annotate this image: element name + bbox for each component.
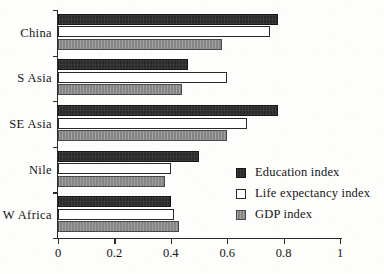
bar-education [58,151,199,162]
y-axis-tick [53,192,58,193]
bar-gdp [58,39,222,50]
x-axis-line [57,238,342,239]
legend-swatch-gdp-icon [236,210,246,220]
bar-education [58,196,171,207]
x-axis-tick-label: 0.2 [107,246,123,261]
legend-label: GDP index [255,207,312,222]
x-axis-tick-label: 0 [55,246,61,261]
y-axis-tick [53,10,58,11]
legend-swatch-education-icon [236,168,246,178]
bar-lifeexp [58,209,174,220]
x-axis-tick [227,239,228,244]
x-axis-tick-label: 0.8 [276,246,292,261]
x-axis-tick [340,239,341,244]
bar-lifeexp [58,118,247,129]
legend-item: GDP index [236,204,370,225]
bar-gdp [58,221,179,232]
y-axis-category-label: S Asia [17,71,52,86]
bar-education [58,105,278,116]
bar-gdp [58,176,165,187]
y-axis-tick [53,147,58,148]
bar-chart: 00.20.40.60.81 ChinaS AsiaSE AsiaNileW A… [0,0,384,274]
bar-education [58,14,278,25]
x-axis-tick [171,239,172,244]
bar-lifeexp [58,163,171,174]
y-axis-category-label: China [20,25,52,40]
y-axis-tick [53,101,58,102]
x-axis-tick-label: 0.6 [219,246,235,261]
y-axis-tick [53,56,58,57]
x-axis-tick-label: 0.4 [163,246,179,261]
bar-gdp [58,84,182,95]
y-axis-category-label: W Africa [3,208,52,223]
y-axis-category-label: SE Asia [9,117,52,132]
legend-swatch-lifeexp-icon [236,189,246,199]
x-axis-tick [58,239,59,244]
legend-item: Life expectancy index [236,183,370,204]
bar-lifeexp [58,72,227,83]
x-axis-tick-label: 1 [337,246,343,261]
x-axis-tick [284,239,285,244]
legend-label: Life expectancy index [255,186,370,201]
legend-item: Education index [236,162,370,183]
y-axis-category-label: Nile [29,162,52,177]
legend-label: Education index [255,165,340,180]
bar-lifeexp [58,26,270,37]
chart-legend: Education indexLife expectancy indexGDP … [236,162,370,225]
x-axis-tick [114,239,115,244]
bar-education [58,59,188,70]
bar-gdp [58,130,227,141]
